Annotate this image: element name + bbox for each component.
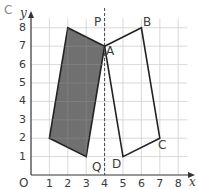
x-tick-1: 1 — [46, 178, 53, 189]
y-axis-label: y — [20, 7, 27, 19]
x-tick-3: 3 — [83, 178, 90, 189]
y-tick-4: 4 — [19, 95, 26, 106]
y-tick-8: 8 — [19, 22, 26, 33]
point-label-b: B — [143, 16, 151, 28]
x-tick-4: 4 — [101, 178, 108, 189]
reflection-diagram: C y x O 12345678 12345678 P Q A B C D — [0, 0, 198, 189]
mirror-label-p: P — [94, 16, 101, 28]
y-tick-1: 1 — [19, 151, 26, 162]
point-label-c: C — [158, 139, 166, 151]
x-tick-5: 5 — [120, 178, 127, 189]
y-tick-5: 5 — [19, 77, 26, 88]
x-tick-7: 7 — [156, 178, 163, 189]
x-tick-8: 8 — [175, 178, 182, 189]
corner-label: C — [4, 4, 12, 16]
x-tick-6: 6 — [138, 178, 145, 189]
y-tick-6: 6 — [19, 59, 26, 70]
y-tick-2: 2 — [19, 132, 26, 143]
x-tick-2: 2 — [64, 178, 71, 189]
point-label-d: D — [112, 158, 121, 170]
y-tick-7: 7 — [19, 40, 26, 51]
point-label-a: A — [106, 45, 114, 57]
mirror-label-q: Q — [92, 161, 101, 173]
origin-label: O — [19, 177, 28, 189]
shaded-quadrilateral — [49, 28, 104, 157]
x-axis-label: x — [189, 176, 196, 188]
y-axis-arrow-icon — [28, 11, 34, 18]
shaded-grid-lines — [31, 0, 198, 175]
y-tick-3: 3 — [19, 114, 26, 125]
